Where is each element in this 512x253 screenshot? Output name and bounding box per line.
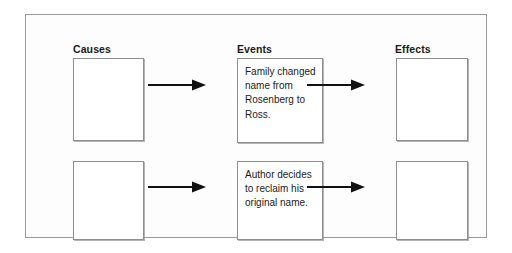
effects-box-row-2-text [397, 162, 467, 168]
organizer-frame: Causes Events Effects Family changed nam… [25, 14, 487, 238]
causes-box-row-2[interactable] [73, 161, 144, 240]
column-label-events: Events [237, 43, 272, 55]
events-box-row-2-text: Author decides to reclaim his original n… [238, 162, 322, 211]
effects-box-row-1-text [397, 59, 467, 65]
causes-box-row-2-text [74, 162, 143, 168]
effects-box-row-1[interactable] [396, 58, 468, 141]
events-box-row-1-text: Family changed name from Rosenberg to Ro… [238, 59, 322, 122]
diagram-canvas: Causes Events Effects Family changed nam… [0, 0, 512, 253]
effects-box-row-2[interactable] [396, 161, 468, 240]
causes-box-row-1-text [74, 59, 143, 65]
causes-box-row-1[interactable] [73, 58, 144, 141]
events-box-row-1[interactable]: Family changed name from Rosenberg to Ro… [237, 58, 323, 143]
column-label-effects: Effects [395, 43, 431, 55]
events-box-row-2[interactable]: Author decides to reclaim his original n… [237, 161, 323, 240]
column-label-causes: Causes [73, 43, 111, 55]
